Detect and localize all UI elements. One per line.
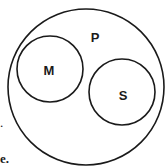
label-s: S [119,88,128,103]
label-p: P [91,30,100,45]
label-m: M [44,63,55,78]
text-fragment-period: . [0,116,3,129]
outer-circle-p [8,9,164,165]
text-fragment-e: e. [0,152,9,165]
venn-diagram: P M S [0,0,165,168]
